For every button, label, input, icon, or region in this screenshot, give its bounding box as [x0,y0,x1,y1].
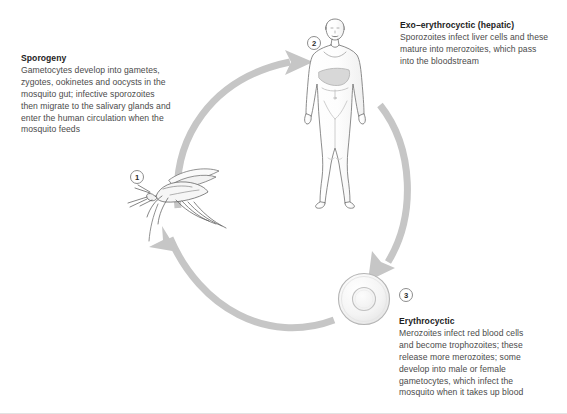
malaria-life-cycle-figure: 1 2 3 Sporogeny Gametocytes develop into… [0,0,567,414]
caption-exo-erythrocytic-heading: Exo–erythrocyctic (hepatic) [400,19,560,31]
caption-exo-erythrocytic: Exo–erythrocyctic (hepatic) Sporozoites … [400,19,560,68]
caption-sporogeny-heading: Sporogeny [21,52,199,64]
caption-exo-erythrocytic-body: Sporozoites infect liver cells and these… [400,32,560,68]
step-number-2-badge: 2 [307,36,321,50]
caption-sporogeny: Sporogeny Gametocytes develop into gamet… [21,52,199,136]
step-number-1-badge: 1 [130,170,144,184]
caption-sporogeny-body: Gametocytes develop into gametes, zygote… [21,65,199,136]
arrow-human-to-red-blood-cell [368,105,407,281]
caption-erythrocytic-body: Merozoites infect red blood cells and be… [399,328,561,399]
step-number-3-badge: 3 [399,288,413,302]
caption-erythrocytic-heading: Erythrocyctic [399,315,561,327]
arrow-red-blood-cell-to-mosquito [149,226,334,328]
red-blood-cell-illustration [339,274,390,325]
caption-erythrocytic: Erythrocyctic Merozoites infect red bloo… [399,315,561,399]
